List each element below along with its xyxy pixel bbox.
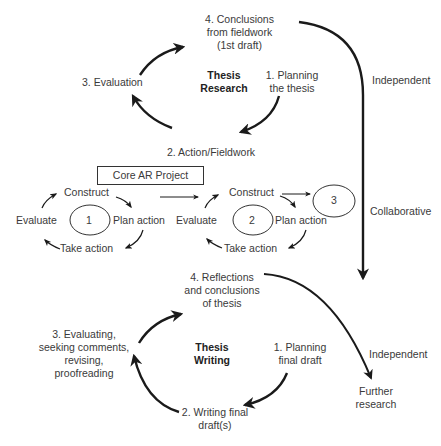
arrow-planning-to-writing — [245, 373, 287, 405]
research-step2-label: 2. Action/Fieldwork — [167, 146, 255, 159]
arrow-evaluating-to-reflections — [139, 314, 181, 343]
core-ar-project-box: Core AR Project — [97, 166, 204, 185]
cycle1-number: 1 — [86, 214, 92, 227]
arrow-writing-to-evaluating — [134, 356, 179, 412]
cycle2-number: 2 — [249, 214, 255, 227]
writing-step2-label: 2. Writing final draft(s) — [175, 406, 255, 432]
cycle3-number: 3 — [331, 194, 337, 207]
independent-bottom-label: Independent — [369, 348, 427, 361]
research-step4-label: 4. Conclusions from fieldwork (1st draft… — [192, 13, 287, 52]
cycle2-construct: Construct — [229, 186, 274, 199]
cycle2-evaluate: Evaluate — [176, 214, 217, 227]
research-step3-label: 3. Evaluation — [82, 76, 143, 89]
cycle1-plan-action: Plan action — [113, 214, 165, 227]
research-step1-label: 1. Planning the thesis — [262, 69, 322, 95]
cycle2-plan-action: Plan action — [275, 214, 327, 227]
research-cycle-title: Thesis Research — [194, 69, 254, 95]
cycle1-construct: Construct — [64, 186, 109, 199]
independent-top-label: Independent — [372, 74, 430, 87]
writing-step1-label: 1. Planning final draft — [272, 341, 328, 367]
writing-step3-label: 3. Evaluating, seeking comments, revisin… — [36, 328, 132, 380]
arrow-evaluation-to-conclusions — [140, 47, 183, 75]
thesis-process-diagram: 4. Conclusions from fieldwork (1st draft… — [0, 0, 441, 446]
writing-cycle-title: Thesis Writing — [187, 341, 237, 367]
arrow-planning-to-fieldwork — [241, 96, 279, 132]
cycle1-evaluate: Evaluate — [16, 214, 57, 227]
writing-step4-label: 4. Reflections and conclusions of thesis — [177, 271, 267, 310]
arrow-fieldwork-to-evaluation — [133, 96, 172, 128]
cycle1-take-action: Take action — [60, 242, 113, 255]
arrow-independent-collaborative — [299, 22, 363, 278]
collaborative-label: Collaborative — [370, 205, 431, 218]
cycle2-take-action: Take action — [224, 242, 277, 255]
further-research-label: Further research — [350, 385, 402, 411]
